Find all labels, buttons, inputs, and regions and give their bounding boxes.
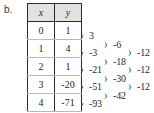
first-difference-value: -3 [89,46,97,60]
table-body: 0 1 1 4 2 1 3 -20 4 -71 5 -164 [28,22,82,113]
cell-y: 4 [55,40,82,58]
cell-y: 1 [55,22,82,40]
table-row: 0 1 [28,22,82,40]
bracket-icon: › [104,69,113,87]
bracket-icon: › [104,86,113,104]
bracket-icon: › [128,77,137,95]
second-difference-value: -30 [113,72,126,86]
third-difference-value: -12 [137,80,150,94]
finite-difference-figure: b. x y 0 1 1 4 2 1 3 -20 [0,0,154,112]
bracket-icon: › [104,35,113,53]
third-difference-value: -12 [137,46,150,60]
cell-x: 2 [28,58,55,76]
table-row: 1 4 [28,40,82,58]
bracket-icon: › [80,60,89,78]
bracket-icon: › [128,60,137,78]
table-row: 4 -71 [28,94,82,112]
cell-y: -164 [55,112,82,113]
first-difference-value: 3 [89,29,94,43]
table-row: 5 -164 [28,112,82,113]
cell-x: 4 [28,94,55,112]
bracket-icon: › [128,43,137,61]
cell-y: 1 [55,58,82,76]
third-difference-item: ›-12 [128,45,154,59]
first-difference-value: -93 [89,97,102,111]
third-difference-item: ›-12 [128,79,154,93]
table-row: 3 -20 [28,76,82,94]
part-label: b. [4,4,13,16]
table-row: 2 1 [28,58,82,76]
table-header-row: x y [28,4,82,22]
second-difference-value: -18 [113,55,126,69]
first-difference-value: -51 [89,80,102,94]
bracket-icon: › [80,43,89,61]
cell-y: -71 [55,94,82,112]
cell-x: 5 [28,112,55,113]
second-difference-value: -6 [113,38,121,52]
table-header: x y [28,4,82,22]
second-difference-value: -42 [113,89,126,103]
bracket-icon: › [80,77,89,95]
third-difference-column: ›-12 ›-12 ›-12 [128,0,154,112]
bracket-icon: › [80,94,89,112]
first-difference-value: -21 [89,63,102,77]
column-header-x: x [28,4,55,22]
bracket-icon: › [104,52,113,70]
bracket-icon: › [80,26,89,44]
column-header-y: y [55,4,82,22]
cell-y: -20 [55,76,82,94]
cell-x: 3 [28,76,55,94]
cell-x: 0 [28,22,55,40]
cell-x: 1 [28,40,55,58]
third-difference-item: ›-12 [128,62,154,76]
third-difference-value: -12 [137,63,150,77]
xy-value-table: x y 0 1 1 4 2 1 3 -20 4 -71 [27,3,82,112]
